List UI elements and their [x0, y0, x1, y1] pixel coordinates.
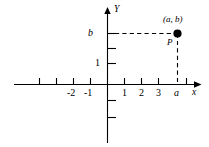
x-value-label-a: a: [174, 88, 179, 98]
y-value-label-b: b: [88, 28, 93, 38]
x-tick-label-pos-1: 1: [122, 88, 127, 98]
x-axis-label: x: [192, 88, 196, 98]
coordinate-plane-figure: Y x -2 -1 1 2 3 1 b a P (a, b): [0, 0, 209, 147]
y-tick-label-pos-1: 1: [95, 58, 100, 68]
point-coordinates-label: (a, b): [163, 15, 183, 24]
y-axis-label: Y: [114, 5, 119, 15]
point-p-marker: [173, 29, 181, 37]
y-axis-arrowhead: [104, 7, 110, 14]
point-p-label: P: [167, 38, 173, 47]
x-tick-label-pos-2: 2: [139, 88, 144, 98]
x-tick-label-neg-1: -1: [84, 88, 92, 98]
x-tick-label-pos-3: 3: [156, 88, 161, 98]
x-tick-label-neg-2: -2: [67, 88, 75, 98]
